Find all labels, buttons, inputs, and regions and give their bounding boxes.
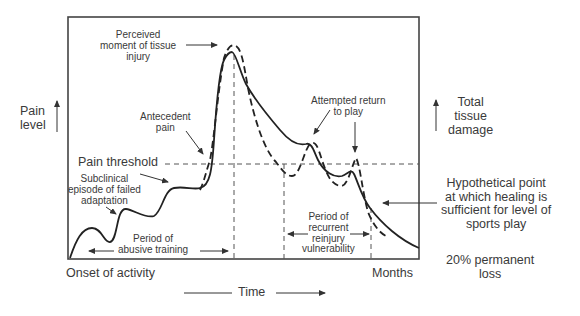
annotation-line: loss xyxy=(446,267,534,281)
perceived-injury-label: Perceived moment of tissue injury xyxy=(100,29,176,63)
onset-of-activity-label: Onset of activity xyxy=(66,266,155,280)
annotation-line: sufficient for level of xyxy=(441,204,551,218)
subclinical-arrow-2 xyxy=(106,207,116,214)
annotation-line: 20% permanent xyxy=(446,253,534,267)
months-label: Months xyxy=(372,266,413,280)
pain-level-label-line: Pain xyxy=(20,104,46,118)
annotation-line: at which healing is xyxy=(441,191,551,205)
pain-level-label-line: level xyxy=(20,118,46,132)
tissue-damage-label-line: Total xyxy=(448,95,493,109)
annotation-line: sports play xyxy=(441,218,551,232)
annotation-line: Hypothetical point xyxy=(441,177,551,191)
annotation-line: abusive training xyxy=(118,244,188,255)
annotation-line: injury xyxy=(100,51,176,62)
permanent-loss-label: 20% permanent loss xyxy=(446,253,534,281)
annotation-line: adaptation xyxy=(68,195,141,206)
healing-point-label: Hypothetical point at which healing is s… xyxy=(441,177,551,231)
subclinical-label: Subclinical episode of failed adaptation xyxy=(68,173,141,207)
reinjury-label: Period of recurrent reinjury vulnerabili… xyxy=(302,212,355,255)
total-tissue-damage-label: Total tissue damage xyxy=(448,95,493,137)
antecedent-pain-arrow xyxy=(186,131,203,154)
annotation-line: Subclinical xyxy=(68,173,141,184)
annotation-line: recurrent xyxy=(302,223,355,234)
annotation-line: Attempted return xyxy=(311,95,385,106)
tissue-damage-label-line: tissue xyxy=(448,109,493,123)
annotation-line: Period of xyxy=(118,233,188,244)
attempted-return-label: Attempted return to play xyxy=(311,95,385,117)
subclinical-arrow-1 xyxy=(140,174,168,182)
pain-level-label: Pain level xyxy=(20,104,46,132)
annotation-line: episode of failed xyxy=(68,184,141,195)
annotation-line: Antecedent xyxy=(140,111,191,122)
annotation-line: pain xyxy=(140,122,191,133)
antecedent-pain-label: Antecedent pain xyxy=(140,111,191,133)
annotation-line: Perceived xyxy=(100,29,176,40)
pain-threshold-label: Pain threshold xyxy=(78,155,158,169)
tissue-damage-label-line: damage xyxy=(448,123,493,137)
annotation-line: moment of tissue xyxy=(100,40,176,51)
time-axis-label: Time xyxy=(238,285,265,299)
annotation-line: to play xyxy=(311,106,385,117)
annotation-line: vulnerability xyxy=(302,244,355,255)
abusive-training-label: Period of abusive training xyxy=(118,233,188,255)
